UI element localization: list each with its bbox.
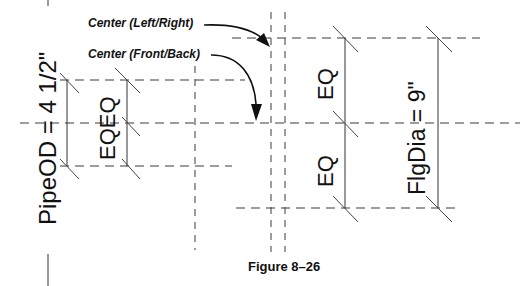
dimension-tick	[122, 159, 140, 179]
drawing-canvas: PipeOD = 4 1/2" EQEQ EQ EQ FlgDia = 9" C…	[0, 0, 520, 286]
dimension-tick	[60, 73, 79, 93]
inner-eq-label[interactable]: EQEQ	[95, 96, 120, 160]
flange-dia-label[interactable]: FlgDia = 9"	[404, 81, 430, 195]
leader-left-right	[204, 25, 262, 38]
pipe-od-label[interactable]: PipeOD = 4 1/2"	[34, 52, 61, 225]
right-eq-lower-label[interactable]: EQ	[313, 155, 338, 187]
arrowhead-front-back-icon	[251, 104, 262, 121]
callout-center-left-right: Center (Left/Right)	[88, 16, 193, 30]
dimension-tick	[426, 26, 452, 52]
dimension-tick	[426, 196, 452, 222]
dimension-tick	[60, 159, 79, 179]
right-eq-upper-label[interactable]: EQ	[313, 68, 338, 100]
figure-caption: Figure 8–26	[248, 259, 320, 274]
dimension-tick	[122, 117, 140, 136]
callout-center-front-back: Center (Front/Back)	[88, 47, 200, 61]
